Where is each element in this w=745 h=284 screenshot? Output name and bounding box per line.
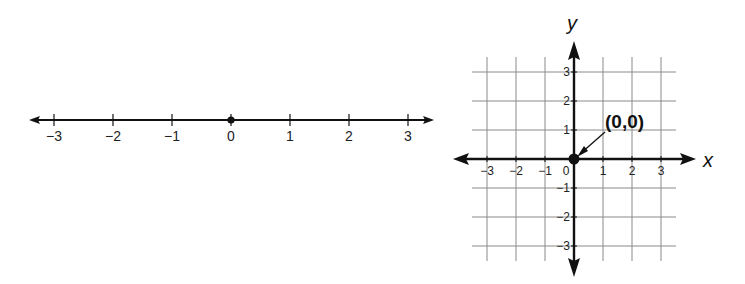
origin-label: (0,0) <box>605 111 644 132</box>
number-line-tick-label: 2 <box>345 128 353 144</box>
x-tick-label: 3 <box>658 164 665 178</box>
x-tick-label: −3 <box>480 164 494 178</box>
x-tick-label: 2 <box>629 164 636 178</box>
y-tick-label: −3 <box>556 239 570 253</box>
y-tick-label: 3 <box>563 65 570 79</box>
number-line-tick-label: 3 <box>404 128 412 144</box>
y-tick-label: 2 <box>563 94 570 108</box>
number-line-tick-label: −3 <box>46 128 62 144</box>
origin-point <box>569 154 580 165</box>
x-axis-label: x <box>702 149 714 171</box>
axes <box>453 41 696 277</box>
number-line-tick-label: −2 <box>105 128 121 144</box>
y-axis-label: y <box>565 12 578 34</box>
number-line-point <box>227 116 234 123</box>
x-tick-label: 1 <box>600 164 607 178</box>
number-line: −3−2−10123 <box>29 114 434 144</box>
x-tick-label: 0 <box>563 164 570 178</box>
y-tick-label: −1 <box>556 181 570 195</box>
x-tick-label: −2 <box>509 164 523 178</box>
number-line-tick-label: 0 <box>227 128 235 144</box>
number-line-tick-label: −1 <box>164 128 180 144</box>
y-tick-label: −2 <box>556 210 570 224</box>
coordinate-plane: −3−2−10123321−1−2−3 x y (0,0) <box>453 12 714 277</box>
x-tick-label: −1 <box>538 164 552 178</box>
y-tick-label: 1 <box>563 123 570 137</box>
diagram-canvas: −3−2−10123 −3−2−10123321−1−2−3 x y (0,0) <box>0 0 745 284</box>
number-line-tick-label: 1 <box>286 128 294 144</box>
